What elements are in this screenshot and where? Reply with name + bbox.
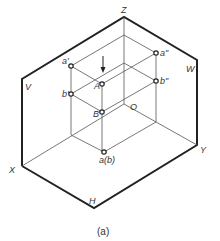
label-Y: Y	[200, 145, 207, 155]
point-B	[100, 110, 104, 114]
projection-lines	[71, 35, 156, 152]
label-a-dprime: a"	[160, 48, 169, 58]
point-A	[100, 82, 104, 86]
label-W: W	[186, 64, 196, 74]
axis-lines	[22, 17, 197, 166]
view-arrow-icon	[101, 56, 106, 73]
point-b-prime	[69, 92, 73, 96]
label-ab: a(b)	[99, 155, 115, 165]
figure-caption: (a)	[97, 226, 109, 237]
point-a-dprime	[154, 51, 158, 55]
point-ab	[102, 150, 106, 154]
point-markers	[69, 51, 158, 154]
label-b-prime: b'	[62, 89, 69, 99]
point-b-dprime	[154, 79, 158, 83]
label-a-prime: a'	[62, 56, 69, 66]
label-Z: Z	[120, 5, 127, 15]
label-A: A	[93, 81, 100, 91]
projection-diagram: Z W Y V X H O a' b' A B a" b" a(b) (a)	[0, 0, 220, 241]
label-X: X	[8, 165, 16, 175]
label-H: H	[89, 196, 96, 206]
label-V: V	[25, 82, 32, 92]
label-O: O	[130, 102, 137, 112]
point-a-prime	[69, 64, 73, 68]
label-b-dprime: b"	[160, 76, 169, 86]
label-B: B	[93, 109, 99, 119]
